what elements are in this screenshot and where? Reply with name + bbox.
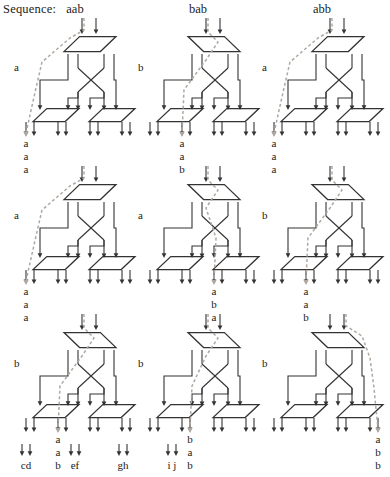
double-arrow-icon — [60, 443, 90, 457]
double-arrow-icon — [157, 443, 187, 457]
footer-group-label-1: ef — [60, 459, 90, 471]
footer-group-2: gh — [108, 443, 138, 471]
panel-r1c2-state-label: b — [138, 62, 144, 73]
panel-r1c2-output-letter-0: a — [175, 137, 189, 150]
output-group-legend: cd ef gh — [0, 443, 390, 477]
double-arrow-icon — [108, 443, 138, 457]
panel-r1c3-output-letter-0: a — [267, 137, 281, 150]
footer-group-label-3: i j — [157, 459, 187, 471]
panel-r1c1-output-letter-0: a — [19, 137, 33, 150]
panel-r1c1-state-label: a — [14, 62, 19, 73]
panel-r2c3 — [260, 158, 390, 308]
routing-network-diagram — [136, 158, 266, 308]
routing-network-diagram — [12, 306, 142, 456]
panel-r2c2-output-letter-0: a — [207, 285, 221, 298]
panel-r1c3-state-label: a — [262, 62, 267, 73]
double-arrow-icon — [11, 443, 41, 457]
panel-r1c2 — [136, 10, 266, 160]
routing-network-diagram — [260, 158, 390, 308]
routing-network-diagram — [136, 10, 266, 160]
footer-group-0: cd — [11, 443, 41, 471]
panel-r3c1 — [12, 306, 142, 456]
footer-group-label-2: gh — [108, 459, 138, 471]
panel-r2c3-output-letter-0: a — [299, 285, 313, 298]
footer-group-3: i j — [157, 443, 187, 471]
panel-r2c1-state-label: a — [14, 210, 19, 221]
routing-network-diagram — [136, 306, 266, 456]
panel-r3c1-state-label: b — [14, 358, 20, 369]
footer-group-label-0: cd — [11, 459, 41, 471]
footer-group-1: ef — [60, 443, 90, 471]
panel-r3c3-state-label: b — [262, 358, 268, 369]
panel-r3c2-state-label: b — [138, 358, 144, 369]
panel-r2c2-state-label: a — [138, 210, 143, 221]
panel-r2c2 — [136, 158, 266, 308]
panel-r2c1-output-letter-0: a — [19, 285, 33, 298]
panel-r3c2 — [136, 306, 266, 456]
panel-r2c3-state-label: b — [262, 210, 268, 221]
figure-root: Sequence: aab bab abb aaaabaabaaaaaaaaaa… — [0, 0, 390, 477]
